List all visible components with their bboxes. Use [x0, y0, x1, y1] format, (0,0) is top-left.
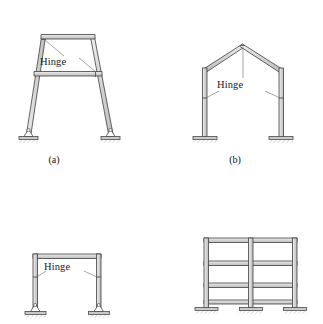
frame-b-left-column [203, 68, 208, 137]
frame-d-support-right [284, 308, 307, 314]
frame-c-left-column [33, 254, 38, 310]
hinge-label-frame-b: Hinge [217, 79, 243, 90]
frame-a-tie-beam [34, 72, 102, 77]
caption-frame-a: (a) [41, 154, 67, 165]
frame-d-column-left [204, 238, 209, 308]
frame-d [195, 238, 307, 314]
frame-b-leader-right [265, 91, 280, 98]
frame-d-column-middle [249, 238, 254, 308]
frame-b-leader-left [206, 91, 219, 98]
frame-c-support-right [89, 304, 110, 318]
frame-d-beam-level-1 [204, 300, 297, 304]
frame-d-beam-level-2 [204, 283, 297, 288]
caption-frame-b: (b) [222, 154, 248, 165]
frame-c-leader-right [84, 271, 97, 277]
frame-a-leader-right [79, 58, 96, 72]
frame-b-support-left [193, 137, 217, 143]
hinge-label-frame-c: Hinge [44, 261, 70, 272]
frame-a-support-left [19, 128, 38, 142]
frame-b [193, 44, 293, 143]
figure-canvas: Hinge Hinge Hinge (a) (b) [0, 0, 323, 324]
frame-a [19, 35, 120, 143]
frame-a-leader-top-left [43, 39, 64, 57]
frame-d-column-right [293, 238, 298, 308]
frame-a-right-column [91, 37, 114, 134]
hinge-label-frame-a: Hinge [40, 56, 66, 67]
frame-c-right-column [97, 254, 102, 310]
frame-a-left-column [27, 37, 46, 134]
frame-b-support-right [269, 137, 293, 143]
frame-b-right-column [279, 68, 284, 137]
frame-a-top-beam [41, 35, 95, 40]
frame-b-right-rafter [240, 44, 282, 72]
frame-d-support-left [195, 308, 218, 314]
frame-a-support-right [101, 128, 120, 142]
frame-c-top-beam [33, 254, 101, 259]
frame-d-support-middle [240, 308, 263, 314]
frame-d-beam-roof [204, 238, 297, 243]
frame-c-support-left [25, 304, 46, 318]
frame-b-left-rafter [204, 44, 246, 72]
frame-d-beam-level-3 [204, 261, 297, 266]
